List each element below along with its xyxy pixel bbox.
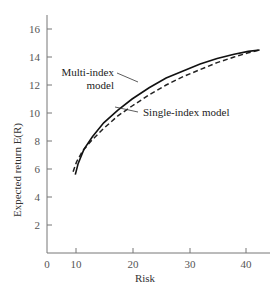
x-tick-label: 20 (128, 258, 140, 270)
y-tick-label: 10 (29, 107, 41, 119)
single-index-label: Single-index model (143, 106, 229, 118)
y-tick-label: 12 (29, 79, 40, 91)
y-tick-labels: 2 4 6 8 10 12 14 16 (29, 23, 41, 231)
y-tick-label: 6 (35, 163, 41, 175)
multi-index-leader-line (117, 73, 138, 82)
x-tick-label: 10 (71, 258, 83, 270)
x-tick-labels: 0 10 20 30 40 (44, 258, 252, 270)
multi-index-label-line2: model (87, 79, 115, 91)
x-ticks (76, 248, 246, 253)
y-tick-label: 8 (35, 135, 41, 147)
y-tick-label: 16 (29, 23, 41, 35)
x-tick-label: 40 (241, 258, 253, 270)
y-axis-title: Expected return E(R) (11, 123, 24, 217)
chart: 0 10 20 30 40 2 4 6 8 10 12 14 16 Risk E… (0, 0, 279, 299)
x-tick-label: 0 (44, 258, 50, 270)
x-tick-label: 30 (185, 258, 197, 270)
y-tick-label: 2 (35, 219, 41, 231)
y-ticks (47, 29, 52, 225)
x-axis-title: Risk (135, 272, 156, 284)
y-tick-label: 14 (29, 51, 41, 63)
multi-index-label: Multi-index (61, 66, 114, 78)
y-tick-label: 4 (35, 191, 41, 203)
